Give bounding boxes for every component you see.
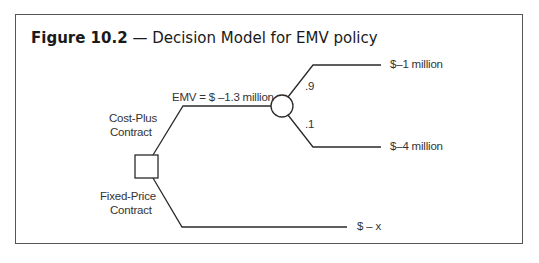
outcome-branch-line-0 bbox=[288, 65, 381, 97]
outcome-value-1: $–4 million bbox=[390, 140, 443, 152]
fixed-price-label-line2: Contract bbox=[110, 204, 152, 216]
fixed-price-outcome: $ – x bbox=[357, 220, 381, 232]
probability-0: .9 bbox=[305, 80, 314, 92]
outcome-value-0: $–1 million bbox=[390, 58, 443, 70]
cost-plus-branch-line bbox=[153, 106, 271, 155]
outcome-branch-line-1 bbox=[288, 115, 381, 147]
chance-node-circle bbox=[271, 95, 293, 117]
probability-1: .1 bbox=[305, 118, 314, 130]
cost-plus-label-line1: Cost-Plus bbox=[109, 112, 157, 124]
emv-label: EMV = $ –1.3 million bbox=[172, 91, 274, 103]
decision-node-square bbox=[135, 155, 158, 178]
fixed-price-branch-line bbox=[153, 178, 347, 227]
cost-plus-label-line2: Contract bbox=[110, 126, 152, 138]
fixed-price-label-line1: Fixed-Price bbox=[100, 190, 156, 202]
decision-tree bbox=[0, 0, 539, 263]
